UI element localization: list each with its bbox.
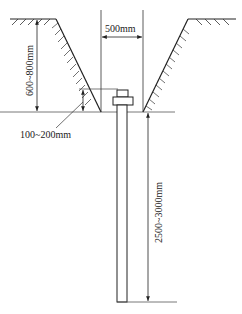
- label-pile-length: 2500~3000mm: [153, 182, 164, 243]
- pile-cap-top: [117, 90, 128, 97]
- pile-shaft: [117, 105, 127, 302]
- ground-surface-right: [188, 19, 236, 25]
- trench-slope-left: [52, 19, 101, 112]
- label-trench-width: 500mm: [105, 23, 136, 34]
- label-cap-height: 100~200mm: [20, 129, 71, 140]
- label-trench-depth: 600~800mm: [24, 45, 35, 96]
- leader-line-cap: [56, 102, 83, 128]
- ground-surface-left: [10, 19, 56, 25]
- trench-slope-right: [143, 19, 189, 112]
- trench-pile-diagram: 500mm 600~800mm 100~200mm 2500~3000mm: [0, 0, 242, 314]
- pile-cap-plate: [113, 97, 133, 105]
